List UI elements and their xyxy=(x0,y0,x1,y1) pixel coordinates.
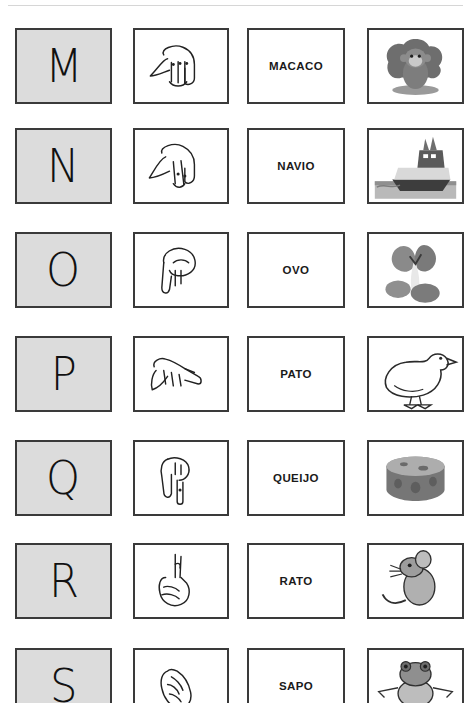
letter-cell-q[interactable]: Q xyxy=(15,440,112,516)
libras-hand-n-icon xyxy=(135,130,227,203)
alphabet-row: R RATO xyxy=(0,543,471,621)
word-label: RATO xyxy=(279,575,312,587)
letter-glyph: S xyxy=(50,663,77,703)
word-cell-m[interactable]: MACACO xyxy=(247,28,345,104)
letter-glyph: O xyxy=(46,247,80,294)
word-label: NAVIO xyxy=(277,160,315,172)
alphabet-row: S SAPO xyxy=(0,648,471,703)
letter-cell-s[interactable]: S xyxy=(15,648,112,703)
word-label: MACACO xyxy=(269,60,323,72)
word-label: OVO xyxy=(283,264,310,276)
letter-glyph: Q xyxy=(46,455,80,502)
alphabet-row: M MACACO xyxy=(0,28,471,106)
sign-cell-q[interactable] xyxy=(133,440,229,516)
letter-cell-o[interactable]: O xyxy=(15,232,112,308)
letter-cell-n[interactable]: N xyxy=(15,128,112,204)
picture-cell-o[interactable] xyxy=(367,232,464,308)
sign-cell-o[interactable] xyxy=(133,232,229,308)
letter-glyph: M xyxy=(45,43,82,90)
libras-hand-p-icon xyxy=(135,338,227,411)
word-cell-o[interactable]: OVO xyxy=(247,232,345,308)
picture-cell-n[interactable] xyxy=(367,128,464,204)
monkey-illustration xyxy=(369,29,462,103)
word-cell-n[interactable]: NAVIO xyxy=(247,128,345,204)
worksheet-page: M MACACO N NAVIO xyxy=(0,0,471,703)
letter-cell-r[interactable]: R xyxy=(15,543,112,619)
word-label: QUEIJO xyxy=(273,472,319,484)
libras-hand-m-icon xyxy=(135,30,227,103)
word-cell-q[interactable]: QUEIJO xyxy=(247,440,345,516)
sign-cell-m[interactable] xyxy=(133,28,229,104)
picture-cell-q[interactable] xyxy=(367,440,464,516)
header-divider xyxy=(8,5,463,6)
sign-cell-r[interactable] xyxy=(133,543,229,619)
ship-illustration xyxy=(369,129,462,203)
alphabet-row: Q QUEIJO xyxy=(0,440,471,518)
word-cell-s[interactable]: SAPO xyxy=(247,648,345,703)
alphabet-row: P PATO xyxy=(0,336,471,414)
duck-illustration xyxy=(369,337,462,411)
libras-hand-r-icon xyxy=(135,545,227,618)
letter-cell-p[interactable]: P xyxy=(15,336,112,412)
eggs-illustration xyxy=(369,233,462,307)
word-cell-r[interactable]: RATO xyxy=(247,543,345,619)
picture-cell-p[interactable] xyxy=(367,336,464,412)
picture-cell-r[interactable] xyxy=(367,543,464,619)
letter-glyph: N xyxy=(47,143,79,190)
libras-hand-q-icon xyxy=(135,442,227,515)
letter-glyph: R xyxy=(48,558,78,605)
word-label: PATO xyxy=(280,368,312,380)
word-label: SAPO xyxy=(279,680,313,692)
letter-glyph: P xyxy=(50,351,76,398)
libras-hand-s-icon xyxy=(135,650,227,703)
alphabet-row: N NAVIO xyxy=(0,128,471,206)
libras-hand-o-icon xyxy=(135,234,227,307)
word-cell-p[interactable]: PATO xyxy=(247,336,345,412)
picture-cell-m[interactable] xyxy=(367,28,464,104)
letter-cell-m[interactable]: M xyxy=(15,28,112,104)
picture-cell-s[interactable] xyxy=(367,648,464,703)
mouse-illustration xyxy=(369,544,462,618)
sign-cell-n[interactable] xyxy=(133,128,229,204)
frog-illustration xyxy=(369,649,462,703)
sign-cell-p[interactable] xyxy=(133,336,229,412)
cheese-illustration xyxy=(369,441,462,515)
sign-cell-s[interactable] xyxy=(133,648,229,703)
alphabet-row: O OVO xyxy=(0,232,471,310)
